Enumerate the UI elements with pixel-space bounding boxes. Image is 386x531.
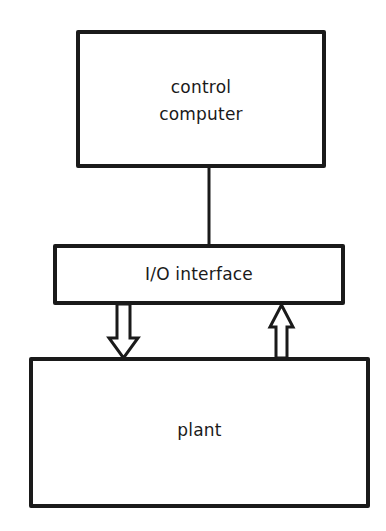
control-computer-block: control computer bbox=[76, 30, 326, 168]
output-arrow-down-icon bbox=[109, 304, 138, 358]
plant-block: plant bbox=[29, 357, 370, 508]
input-arrow-up-icon bbox=[270, 305, 293, 358]
io-interface-block: I/O interface bbox=[53, 244, 345, 305]
plant-label: plant bbox=[177, 417, 221, 444]
control-computer-label: control computer bbox=[159, 74, 243, 128]
control-system-block-diagram: control computer I/O interface plant bbox=[0, 0, 386, 531]
io-interface-label: I/O interface bbox=[145, 261, 253, 288]
